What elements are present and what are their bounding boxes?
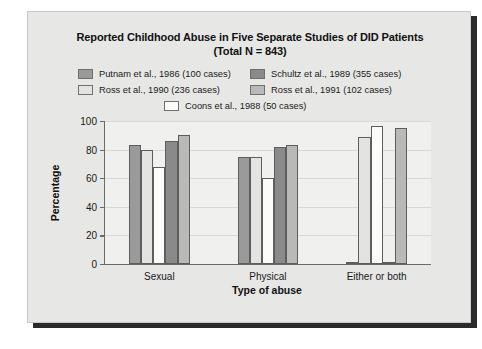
chart-panel: Reported Childhood Abuse in Five Separat… [27, 11, 471, 323]
bar[interactable] [383, 262, 395, 264]
y-axis-tick [100, 178, 105, 179]
figure-canvas: Reported Childhood Abuse in Five Separat… [0, 0, 482, 349]
bar[interactable] [274, 147, 286, 264]
bar[interactable] [153, 167, 165, 264]
y-axis-tick [100, 235, 105, 236]
bar[interactable] [238, 157, 250, 264]
y-axis-tick [100, 121, 105, 122]
y-axis-tick [100, 264, 105, 265]
y-axis-tick [100, 150, 105, 151]
bar[interactable] [178, 135, 190, 264]
x-axis-tick-label: Sexual [105, 271, 214, 282]
y-axis-tick-label: 60 [86, 173, 97, 184]
bar[interactable] [395, 128, 407, 264]
bar-group [346, 121, 407, 264]
y-axis-label: Percentage [48, 121, 62, 264]
y-axis-tick-label: 80 [86, 144, 97, 155]
y-axis-tick-label: 40 [86, 201, 97, 212]
bar[interactable] [346, 262, 358, 264]
bar[interactable] [250, 157, 262, 264]
plot-area: 020406080100SexualPhysicalEither or both [104, 121, 431, 265]
bar-group [238, 121, 299, 264]
x-axis-label: Type of abuse [104, 284, 430, 296]
y-axis-tick-label: 100 [80, 116, 97, 127]
x-axis-tick-label: Physical [214, 271, 323, 282]
x-axis-tick-label: Either or both [322, 271, 431, 282]
bar-group [129, 121, 190, 264]
y-axis-tick-label: 0 [91, 259, 97, 270]
y-axis-tick-label: 20 [86, 230, 97, 241]
y-axis-label-text: Percentage [49, 164, 61, 221]
bar[interactable] [371, 126, 383, 264]
y-axis-tick [100, 207, 105, 208]
bar[interactable] [286, 145, 298, 264]
bar[interactable] [141, 150, 153, 264]
bar[interactable] [358, 137, 370, 264]
bar[interactable] [129, 145, 141, 264]
bar[interactable] [165, 141, 177, 264]
plot-wrapper: Percentage 020406080100SexualPhysicalEit… [28, 12, 472, 324]
bar[interactable] [262, 178, 274, 264]
